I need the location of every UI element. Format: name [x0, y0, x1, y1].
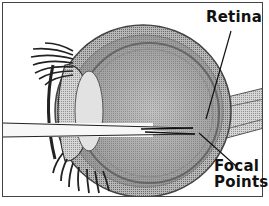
focal-points-label-line-2: Points: [214, 174, 268, 190]
focal-points-label: Focal Points: [214, 158, 268, 190]
focal-points-label-line-1: Focal: [214, 158, 268, 174]
retina-label: Retina: [206, 9, 262, 25]
